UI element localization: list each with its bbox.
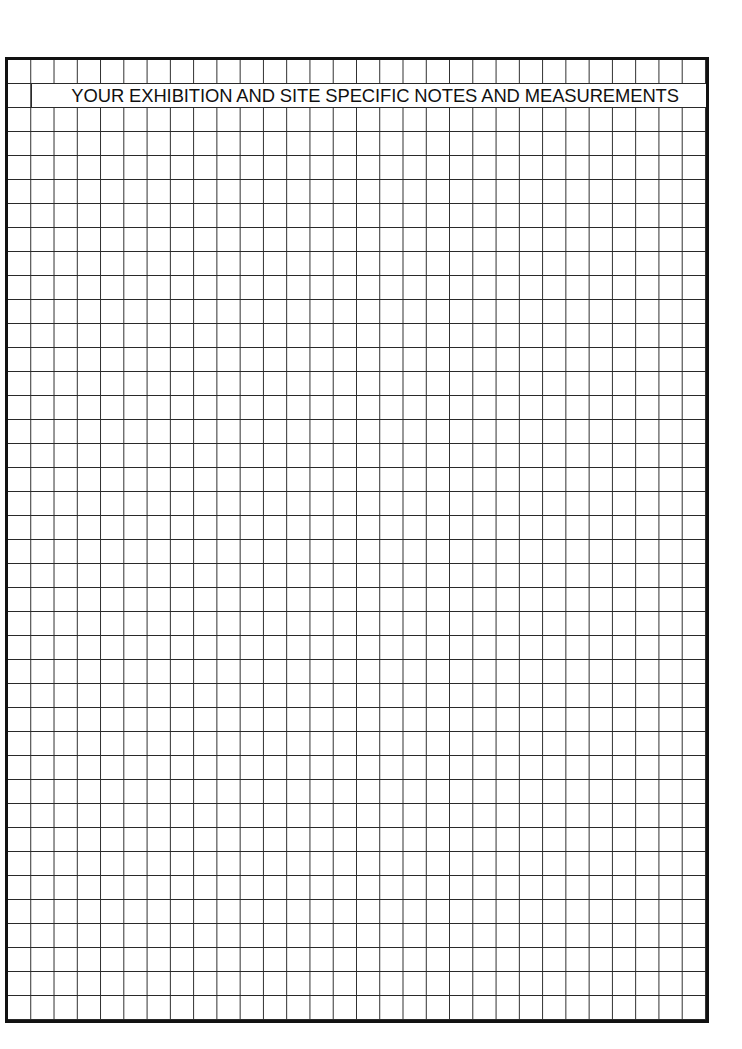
title-band: YOUR EXHIBITION AND SITE SPECIFIC NOTES … bbox=[31, 84, 706, 107]
page-title: YOUR EXHIBITION AND SITE SPECIFIC NOTES … bbox=[59, 85, 679, 107]
measurement-grid bbox=[8, 60, 706, 1020]
notes-grid-sheet: YOUR EXHIBITION AND SITE SPECIFIC NOTES … bbox=[5, 57, 709, 1023]
